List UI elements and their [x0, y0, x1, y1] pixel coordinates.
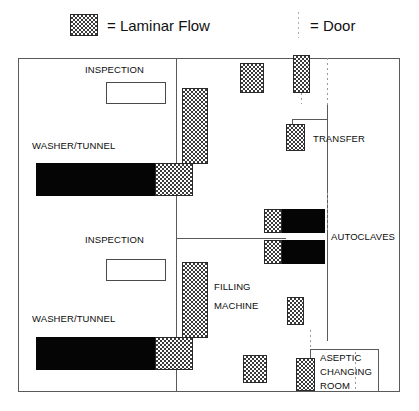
- washer-tunnel-top-body: [36, 163, 155, 196]
- autoclaves-label: AUTOCLAVES: [331, 231, 395, 242]
- laminar-unit-lower-corridor: [287, 297, 304, 325]
- wall-aseptic-room-right: [378, 349, 379, 391]
- wall-outer-right: [399, 58, 400, 392]
- inspection-bottom-station: [106, 259, 166, 281]
- laminar-unit-upper-airlock: [293, 55, 310, 93]
- wall-outer-bottom: [18, 391, 400, 392]
- washer-tunnel-bottom-label: WASHER/TUNNEL: [32, 313, 115, 324]
- laminar-unit-upper-corridor: [240, 63, 264, 93]
- wall-outer-left: [18, 58, 19, 392]
- wall-outer-top: [18, 58, 400, 59]
- aseptic-room-label-line2: CHANGING: [320, 366, 372, 377]
- filling-machine-label-line1: FILLING: [214, 281, 251, 292]
- filling-machine-laminar-column: [182, 262, 208, 338]
- autoclave-lower: [282, 240, 325, 264]
- washer-tunnel-bottom-laminar-hood: [155, 337, 193, 370]
- washer-tunnel-bottom-body: [36, 337, 155, 370]
- legend-door-label: = Door: [310, 17, 355, 34]
- door-aseptic-room: [310, 330, 311, 350]
- transfer-hatch-laminar: [286, 124, 305, 151]
- inspection-bottom-label: INSPECTION: [85, 234, 144, 245]
- wall-suite-divider: [176, 238, 286, 239]
- inspection-top-label: INSPECTION: [85, 64, 144, 75]
- washer-tunnel-top-laminar-hood: [155, 163, 193, 196]
- aseptic-room-label-line1: ASEPTIC: [320, 352, 361, 363]
- door-autoclave-corridor: [327, 193, 328, 233]
- floor-plan-diagram: = Laminar Flow = Door INSPECTION WASHER/…: [0, 0, 419, 411]
- filling-machine-top-laminar-column: [182, 88, 208, 164]
- wall-suite-divider-left: [18, 238, 19, 239]
- door-symbol-icon: [298, 12, 299, 38]
- door-transfer-corridor: [327, 58, 328, 105]
- legend: = Laminar Flow = Door: [0, 0, 419, 48]
- inspection-top-station: [106, 82, 166, 104]
- aseptic-room-label-line3: ROOM: [320, 380, 350, 391]
- wall-transfer-bay-top: [292, 119, 328, 120]
- laminar-unit-lower-floor: [243, 355, 267, 383]
- autoclave-upper-laminar-end: [264, 209, 282, 233]
- legend-laminar-flow-label: = Laminar Flow: [107, 17, 210, 34]
- autoclave-upper: [282, 209, 325, 233]
- aseptic-room-laminar-unit: [296, 358, 315, 391]
- autoclave-lower-laminar-end: [264, 240, 282, 264]
- transfer-label: TRANSFER: [313, 133, 365, 144]
- laminar-flow-swatch-icon: [70, 14, 98, 36]
- wall-aseptic-room-top: [310, 349, 379, 350]
- filling-machine-label-line2: MACHINE: [214, 300, 259, 311]
- wall-corridor-right-mid: [327, 231, 328, 341]
- washer-tunnel-top-label: WASHER/TUNNEL: [32, 140, 115, 151]
